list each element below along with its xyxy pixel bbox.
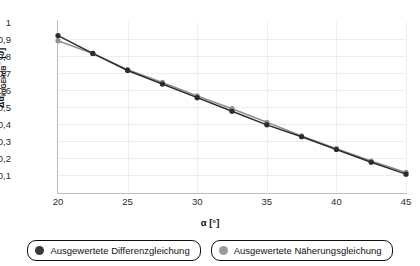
data-point-marker [264,122,269,127]
x-axis-tick-label: 45 [386,196,420,207]
y-axis-title-delta: Δα [0,96,6,108]
legend-item[interactable]: Ausgewertete Näherungsgleichung [211,240,393,261]
data-point-marker [195,95,200,100]
legend-marker-icon [219,246,228,255]
x-axis-tick-label: 35 [247,196,287,207]
data-point-marker [125,68,130,73]
legend-item-label: Ausgewertete Näherungsgleichung [234,245,382,256]
legend-item-label: Ausgewertete Differenzgleichung [50,245,189,256]
y-axis-tick-label: 0,4 [0,119,11,130]
gridline-vertical [406,22,407,192]
series-layer [58,22,406,192]
chart-legend: Ausgewertete DifferenzgleichungAusgewert… [0,240,420,261]
x-axis-tick-label: 40 [316,196,356,207]
x-axis-title: α [°] [0,217,420,228]
data-point-marker [229,109,234,114]
data-point-marker [55,33,60,38]
data-point-marker [299,134,304,139]
x-axis-tick-label: 20 [38,196,78,207]
y-axis-tick-label: 1 [0,17,11,28]
legend-marker-icon [35,246,44,255]
legend-item[interactable]: Ausgewertete Differenzgleichung [27,240,200,261]
y-axis-title-unit: [J] [0,48,6,62]
data-point-marker [334,147,339,152]
data-point-marker [403,172,408,177]
data-point-marker [369,160,374,165]
y-axis-title: ΔαkuGEHdBE [J] [0,48,6,108]
data-point-marker [160,81,165,86]
y-axis-tick-label: 0,1 [0,170,11,181]
x-axis-line [57,193,407,194]
data-point-marker [90,51,95,56]
plot-area [58,22,406,192]
y-axis-title-subscript: kuGEHdB [0,66,7,96]
x-axis-tick-label: 30 [177,196,217,207]
y-axis-title-superscript: E [0,61,1,65]
series-line [58,36,406,175]
y-axis-tick-label: 0,9 [0,34,11,45]
y-axis-tick-label: 0,3 [0,136,11,147]
x-axis-tick-label: 25 [108,196,148,207]
data-point-marker [55,38,60,43]
chart-container: 10,90,80,70,60,50,40,30,20,1 20253035404… [0,0,420,266]
y-axis-tick-label: 0,2 [0,153,11,164]
